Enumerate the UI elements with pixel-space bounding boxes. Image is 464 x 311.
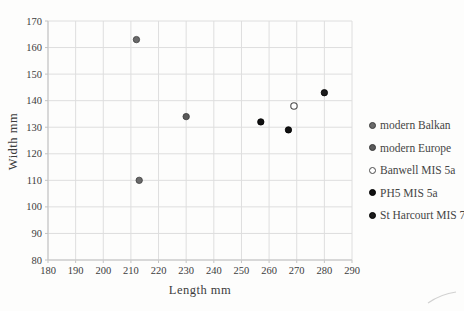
y-tick-label: 100 <box>26 201 42 212</box>
legend: modern Balkanmodern EuropeBanwell MIS 5a… <box>369 114 464 227</box>
filled-circle-marker-icon <box>369 144 376 151</box>
data-point-banwell-mis-5a <box>291 103 297 109</box>
legend-label: PH5 MIS 5a <box>380 187 438 199</box>
data-point-st-harcourt-mis-7 <box>321 90 327 96</box>
legend-item: modern Europe <box>369 137 464 160</box>
x-tick-label: 290 <box>344 265 360 276</box>
data-point-ph5-mis-5a <box>258 119 264 125</box>
x-tick-label: 280 <box>316 265 332 276</box>
x-tick-label: 240 <box>206 265 222 276</box>
x-tick-label: 220 <box>151 265 167 276</box>
y-tick-label: 130 <box>26 122 42 133</box>
x-tick-label: 230 <box>178 265 194 276</box>
x-tick-label: 190 <box>68 265 84 276</box>
filled-circle-marker-icon <box>369 189 376 196</box>
x-axis-title: Length mm <box>48 283 352 298</box>
x-tick-label: 260 <box>261 265 277 276</box>
legend-item: PH5 MIS 5a <box>369 182 464 205</box>
x-tick-label: 210 <box>123 265 139 276</box>
y-axis-title: Width mm <box>6 77 21 207</box>
open-circle-marker-icon <box>369 167 376 174</box>
y-tick-label: 110 <box>27 175 42 186</box>
x-tick-label: 250 <box>234 265 250 276</box>
y-tick-label: 150 <box>26 69 42 80</box>
filled-circle-marker-icon <box>369 122 376 129</box>
x-tick-label: 200 <box>95 265 111 276</box>
data-point-modern-balkan <box>133 36 139 42</box>
filled-circle-marker-icon <box>369 212 376 219</box>
scan-artifact <box>428 292 456 303</box>
scatter-chart-figure: 1801902002102202302402502602702802908090… <box>0 0 464 311</box>
legend-label: Banwell MIS 5a <box>380 164 455 176</box>
y-tick-label: 140 <box>26 95 42 106</box>
data-point-modern-balkan <box>136 177 142 183</box>
y-tick-label: 170 <box>26 16 42 27</box>
legend-label: modern Balkan <box>380 119 451 131</box>
legend-item: Banwell MIS 5a <box>369 159 464 182</box>
y-tick-label: 90 <box>32 228 43 239</box>
y-tick-label: 160 <box>26 42 42 53</box>
legend-item: modern Balkan <box>369 114 464 137</box>
x-tick-label: 270 <box>289 265 305 276</box>
legend-label: modern Europe <box>380 142 451 154</box>
x-tick-label: 180 <box>40 265 56 276</box>
legend-label: St Harcourt MIS 7 <box>380 209 464 221</box>
y-tick-label: 120 <box>26 148 42 159</box>
y-tick-label: 80 <box>32 255 43 266</box>
legend-item: St Harcourt MIS 7 <box>369 204 464 227</box>
data-point-ph5-mis-5a <box>285 127 291 133</box>
data-point-modern-europe <box>183 113 189 119</box>
